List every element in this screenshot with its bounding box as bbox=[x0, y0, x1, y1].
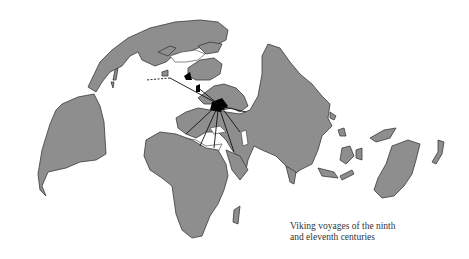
new-guinea bbox=[370, 128, 396, 142]
map-caption: Viking voyages of the ninth and eleventh… bbox=[290, 221, 396, 243]
philippines bbox=[338, 128, 346, 136]
sulawesi bbox=[356, 148, 362, 160]
borneo bbox=[340, 146, 354, 164]
south-america bbox=[38, 94, 106, 196]
greenland bbox=[188, 58, 222, 80]
madagascar bbox=[233, 206, 240, 224]
west-coast-island-2 bbox=[111, 82, 114, 88]
caption-line-2: and eleventh centuries bbox=[290, 232, 396, 243]
north-america bbox=[88, 20, 228, 92]
world-map bbox=[0, 0, 469, 259]
japan bbox=[330, 112, 336, 120]
iceland bbox=[162, 70, 168, 76]
java bbox=[340, 170, 354, 180]
australia bbox=[374, 140, 420, 198]
new-zealand bbox=[432, 140, 444, 164]
caption-line-1: Viking voyages of the ninth bbox=[290, 221, 396, 232]
sumatra bbox=[318, 168, 338, 178]
